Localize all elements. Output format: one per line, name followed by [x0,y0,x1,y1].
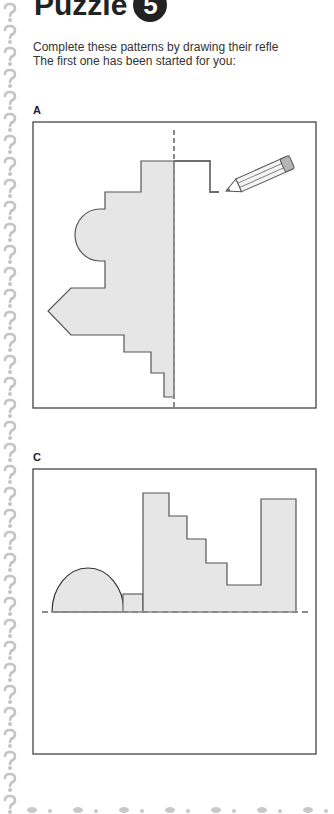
puzzle-figures [0,0,334,814]
figure-c-connector [123,594,143,612]
figure-c [33,469,316,754]
figure-a [33,122,316,408]
